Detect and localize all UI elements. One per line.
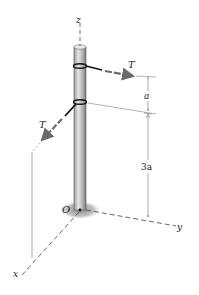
construction-line-dashed — [32, 143, 40, 152]
origin-label: O — [62, 204, 70, 215]
upper-tension-arrow — [105, 71, 133, 76]
x-axis — [22, 212, 79, 275]
pole — [74, 47, 86, 210]
dim-a-label: a — [144, 91, 149, 101]
dim-3a-label: 3a — [141, 162, 153, 172]
y-axis-label: y — [176, 222, 183, 232]
pole-tension-diagram: z T T a 3a O y x — [0, 0, 199, 295]
tension-lower-label: T — [39, 119, 47, 130]
x-axis-label: x — [13, 269, 18, 279]
upper-rope — [86, 66, 102, 70]
upper-dim-reference — [136, 76, 156, 77]
tension-upper-label: T — [128, 59, 136, 70]
lower-dim-reference — [88, 103, 156, 114]
y-axis — [86, 210, 176, 226]
z-axis-label: z — [75, 15, 81, 25]
origin-point — [79, 209, 82, 212]
